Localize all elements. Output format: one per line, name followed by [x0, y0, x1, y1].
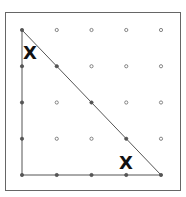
edge-peg — [90, 173, 94, 177]
edge-peg — [20, 137, 24, 141]
edge-peg — [124, 173, 128, 177]
edge-peg — [124, 137, 128, 141]
peg-dot — [159, 137, 162, 140]
edge-peg — [20, 64, 24, 68]
peg-dot — [90, 137, 93, 140]
peg-dot — [55, 101, 58, 104]
geoboard-diagram — [0, 0, 186, 197]
peg-dot — [55, 137, 58, 140]
edge-peg — [55, 173, 59, 177]
edge-peg — [159, 173, 163, 177]
peg-dot — [125, 28, 128, 31]
edge-peg — [20, 28, 24, 32]
peg-dot — [90, 28, 93, 31]
edge-peg — [55, 64, 59, 68]
x-mark-top-left: X — [23, 44, 37, 62]
peg-dot — [159, 28, 162, 31]
edge-peg — [20, 173, 24, 177]
peg-dot — [90, 65, 93, 68]
x-mark-bottom-right: X — [119, 154, 133, 172]
peg-dot — [125, 101, 128, 104]
peg-dot — [159, 65, 162, 68]
peg-dot — [55, 28, 58, 31]
peg-dot — [125, 65, 128, 68]
edge-peg — [90, 101, 94, 105]
edge-peg — [20, 101, 24, 105]
peg-dot — [159, 101, 162, 104]
